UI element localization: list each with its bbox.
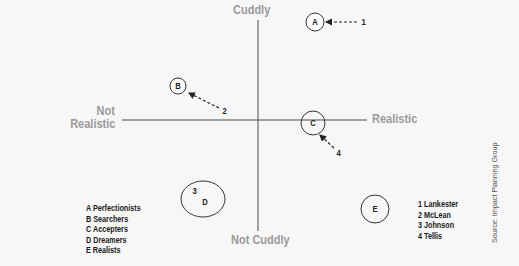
number-2-label: 2 (222, 107, 226, 116)
legend-item-a: A Perfectionists (86, 203, 141, 214)
arrow-4-to-c (320, 135, 334, 148)
number-3-label: 3 (192, 187, 196, 196)
legend-item-e: E Realists (86, 245, 141, 256)
axis-label-left-line2: Realistic (70, 118, 115, 131)
axis-label-right: Realistic (372, 113, 417, 126)
legend-person-3: 3 Johnson (418, 220, 458, 231)
axis-label-top: Cuddly (233, 4, 270, 17)
number-4-label: 4 (336, 149, 340, 158)
arrow-2-to-b (189, 93, 219, 108)
legend-person-1: 1 Lankester (418, 199, 458, 210)
legend-item-d: D Dreamers (86, 235, 141, 246)
node-a-label: A (312, 18, 318, 27)
legend-groups: A Perfectionists B Searchers C Accepters… (86, 203, 141, 256)
node-e-label: E (372, 205, 377, 214)
legend-people: 1 Lankester 2 McLean 3 Johnson 4 Tellis (418, 199, 458, 241)
node-c-label: C (310, 119, 316, 128)
node-d-label: D (202, 198, 208, 207)
legend-person-4: 4 Tellis (418, 231, 458, 242)
number-1-label: 1 (361, 18, 365, 27)
axis-label-bottom: Not Cuddly (231, 234, 290, 247)
legend-item-b: B Searchers (86, 214, 141, 225)
legend-person-2: 2 McLean (418, 210, 458, 221)
node-b-label: B (175, 82, 181, 91)
legend-item-c: C Accepters (86, 224, 141, 235)
source-credit: Source: Impact Planning Group (490, 143, 499, 243)
